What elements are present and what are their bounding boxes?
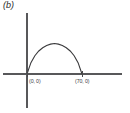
figure-panel-b: (b) (0, 0) (70, 0) <box>0 0 130 113</box>
trajectory-arc <box>27 44 82 75</box>
right-root-point-label: (70, 0) <box>75 78 90 84</box>
origin-point-label: (0, 0) <box>29 78 41 84</box>
plot-area: (0, 0) (70, 0) <box>0 0 130 113</box>
